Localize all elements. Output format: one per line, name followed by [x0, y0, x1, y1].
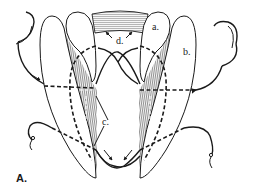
upper-crossing-suture	[96, 48, 140, 84]
anatomical-diagram: a. b. c. d. A.	[0, 0, 255, 188]
lower-left-suture-tail	[28, 122, 52, 150]
label-c: c.	[102, 116, 109, 127]
panel-label: A.	[16, 172, 27, 184]
top-muscle-band	[92, 11, 148, 33]
label-b: b.	[183, 46, 191, 57]
label-d: d.	[116, 35, 124, 46]
right-needle-loop	[214, 22, 237, 67]
lower-right-suture-tail	[184, 127, 213, 168]
diagram-drawing: a. b. c. d. A.	[0, 0, 255, 188]
label-a: a.	[152, 21, 159, 32]
